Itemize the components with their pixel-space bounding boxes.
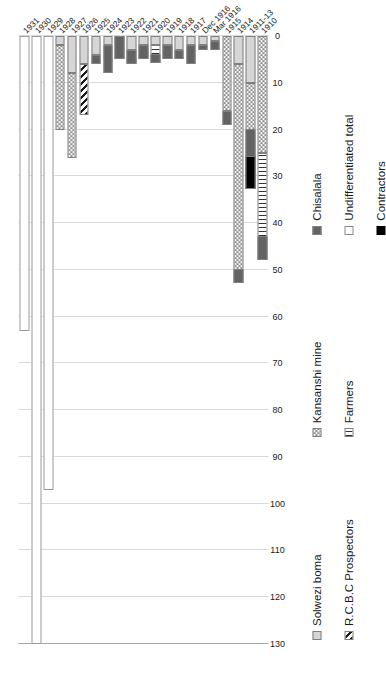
bar-row xyxy=(91,36,101,64)
bar-segment xyxy=(150,45,160,54)
bar-segment xyxy=(67,73,77,157)
legend-label: Kansanshi mine xyxy=(310,342,322,424)
axis-tick-label: 120 xyxy=(266,592,288,602)
bar-segment xyxy=(126,36,136,50)
gridline xyxy=(18,222,268,223)
legend-item[interactable]: Undifferentiated total xyxy=(342,40,354,235)
bar-row xyxy=(103,36,113,73)
bar-row xyxy=(67,36,77,158)
bar-segment xyxy=(233,269,243,283)
bar-segment xyxy=(103,45,113,73)
axis-tick-label: 0 xyxy=(266,31,288,41)
value-axis-line xyxy=(18,643,268,644)
bar-row xyxy=(198,36,208,50)
axis-tick-label: 60 xyxy=(266,312,288,322)
bar-segment xyxy=(198,36,208,45)
axis-tick-label: 130 xyxy=(266,639,288,649)
bar-segment xyxy=(245,36,255,83)
bar-segment xyxy=(257,236,267,259)
bar-segment xyxy=(31,36,41,644)
bar-segment xyxy=(55,45,65,129)
gridline xyxy=(18,549,268,550)
gridline xyxy=(18,456,268,457)
bar-segment xyxy=(222,111,232,125)
bar-row xyxy=(43,36,53,490)
legend-swatch-icon xyxy=(312,631,321,640)
bar-row xyxy=(19,36,29,331)
bar-segment xyxy=(174,36,184,50)
legend-item[interactable]: Farmers xyxy=(342,243,354,438)
bar-row xyxy=(210,36,220,50)
bar-segment xyxy=(79,36,89,64)
bar-row xyxy=(162,36,172,59)
bar-segment xyxy=(91,55,101,64)
gridline xyxy=(18,409,268,410)
gridline xyxy=(18,269,268,270)
axis-tick-label: 100 xyxy=(266,499,288,509)
legend-label: Undifferentiated total xyxy=(342,115,354,221)
bar-segment xyxy=(198,45,208,50)
legend-swatch-icon xyxy=(376,226,385,235)
gridline xyxy=(18,596,268,597)
bar-segment xyxy=(150,54,160,63)
legend-swatch-icon xyxy=(312,428,321,437)
legend-swatch-icon xyxy=(344,428,353,437)
gridline xyxy=(18,362,268,363)
bar-segment xyxy=(186,45,196,64)
axis-tick-label: 110 xyxy=(266,545,288,555)
legend-label: Solwezi boma xyxy=(310,554,322,626)
axis-tick-label: 90 xyxy=(266,452,288,462)
bar-row xyxy=(79,36,89,116)
bar-segment xyxy=(245,83,255,130)
gridline xyxy=(18,503,268,504)
bar-row xyxy=(245,36,255,190)
legend-item[interactable]: Kansanshi mine xyxy=(310,243,322,438)
legend-swatch-icon xyxy=(344,631,353,640)
axis-tick-label: 80 xyxy=(266,405,288,415)
legend-item[interactable]: Chisalala xyxy=(310,40,322,235)
bar-segment xyxy=(126,50,136,64)
legend-item[interactable]: Solwezi boma xyxy=(310,445,322,640)
bar-segment xyxy=(55,36,65,45)
bar-row xyxy=(150,36,160,64)
bar-row xyxy=(114,36,124,59)
bar-segment xyxy=(245,156,255,189)
gridline xyxy=(18,316,268,317)
axis-tick-label: 50 xyxy=(266,265,288,275)
legend-swatch-icon xyxy=(344,226,353,235)
bar-segment xyxy=(138,36,148,45)
bar-segment xyxy=(43,36,53,490)
bar-segment xyxy=(79,64,89,115)
bar-segment xyxy=(162,45,172,59)
plot-area: 1301201101009080706050403020100 19101911… xyxy=(0,0,290,686)
bar-row xyxy=(222,36,232,125)
bar-segment xyxy=(210,36,220,41)
bar-segment xyxy=(257,36,267,153)
bar-segment xyxy=(222,36,232,111)
bar-row xyxy=(55,36,65,130)
bar-row xyxy=(31,36,41,644)
bar-segment xyxy=(186,36,196,45)
legend-swatch-icon xyxy=(312,226,321,235)
legend-item[interactable]: Contractors xyxy=(374,40,386,235)
chart-legend: Solwezi bomaKansanshi mineChisalalaR.C.B… xyxy=(300,40,378,640)
legend-label: Farmers xyxy=(342,381,354,424)
bar-segment xyxy=(114,36,124,59)
axis-tick-label: 40 xyxy=(266,218,288,228)
plot-inner xyxy=(18,36,268,644)
legend-item[interactable]: R.C.B.C Prospectors xyxy=(342,445,354,640)
axis-tick-label: 20 xyxy=(266,125,288,135)
gridline xyxy=(18,175,268,176)
bar-segment xyxy=(67,36,77,73)
bar-segment xyxy=(174,50,184,59)
bar-row xyxy=(186,36,196,64)
bar-row xyxy=(126,36,136,64)
bar-segment xyxy=(138,45,148,59)
bar-segment xyxy=(233,36,243,64)
bar-segment xyxy=(103,36,113,45)
axis-tick-label: 70 xyxy=(266,358,288,368)
bar-row xyxy=(257,36,267,260)
bar-segment xyxy=(91,36,101,55)
bar-segment xyxy=(150,36,160,45)
